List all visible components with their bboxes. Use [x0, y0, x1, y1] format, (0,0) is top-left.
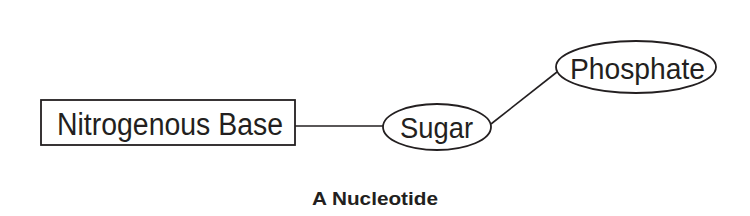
- node-label: Sugar: [400, 111, 473, 144]
- node-label: Phosphate: [570, 52, 705, 85]
- node-label: Nitrogenous Base: [57, 107, 283, 142]
- node-sugar: Sugar: [383, 104, 491, 150]
- node-nitrogenous-base: Nitrogenous Base: [41, 100, 295, 145]
- node-phosphate: Phosphate: [556, 41, 716, 93]
- nucleotide-diagram: Nitrogenous Base Sugar Phosphate A Nucle…: [0, 0, 750, 216]
- edge-sugar-phosphate: [491, 72, 557, 124]
- diagram-caption: A Nucleotide: [312, 188, 438, 209]
